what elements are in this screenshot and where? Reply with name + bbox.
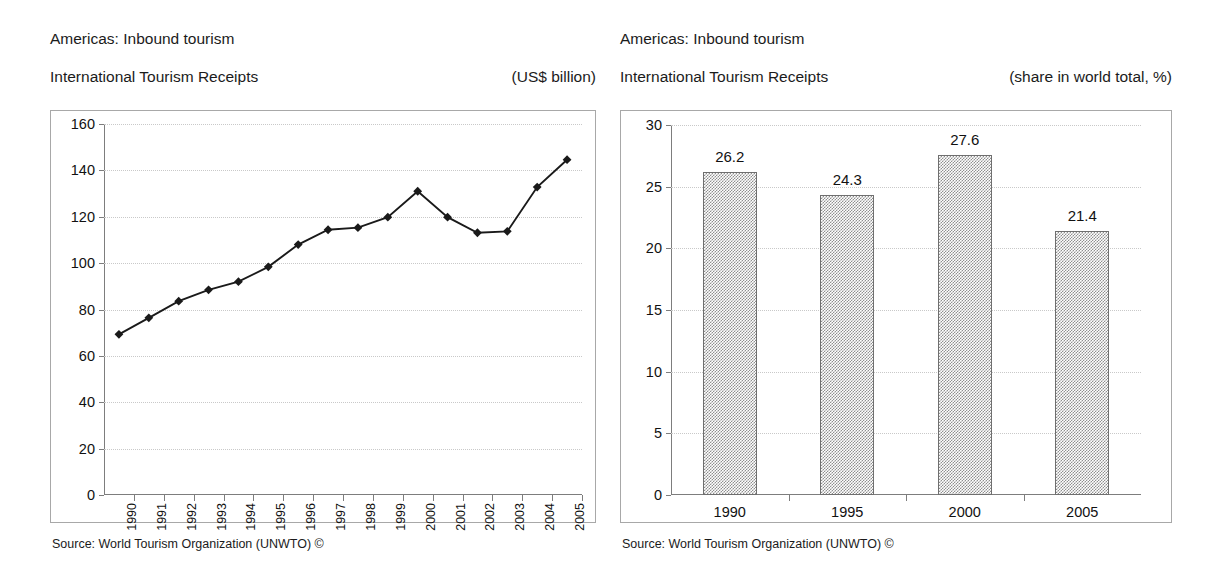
x-axis-label: 2000: [949, 504, 981, 520]
x-axis-label: 1990: [714, 504, 746, 520]
left-chart-source: Source: World Tourism Organization (UNWT…: [52, 537, 324, 551]
left-chart-frame: 0204060801001201401601990199119921993199…: [50, 110, 596, 523]
x-axis-tick: [313, 495, 314, 501]
bar-value-label: 21.4: [1068, 207, 1097, 224]
y-axis-label: 20: [646, 240, 662, 256]
x-axis-label: 1995: [274, 503, 288, 531]
x-axis-label: 1992: [185, 503, 199, 531]
data-point-marker: [354, 223, 363, 232]
data-point-marker: [204, 285, 213, 294]
data-point-marker: [324, 225, 333, 234]
y-axis-tick: [666, 310, 671, 311]
y-axis-label: 15: [646, 302, 662, 318]
y-axis-tick: [666, 187, 671, 188]
right-chart-frame: 05101520253026.2199024.3199527.6200021.4…: [620, 110, 1172, 523]
left-chart-panel: Americas: Inbound tourism International …: [50, 0, 596, 586]
right-chart-source: Source: World Tourism Organization (UNWT…: [622, 537, 894, 551]
y-axis-label: 140: [71, 162, 95, 178]
bar: [938, 155, 992, 495]
x-axis-tick: [582, 495, 583, 501]
x-axis-label: 2004: [543, 503, 557, 531]
x-axis-tick: [492, 495, 493, 501]
x-axis-tick: [433, 495, 434, 501]
right-chart-title-line2: International Tourism Receipts: [620, 69, 828, 85]
y-axis-tick: [666, 125, 671, 126]
left-chart-plot-area: 0204060801001201401601990199119921993199…: [104, 124, 582, 495]
y-axis-label: 160: [71, 116, 95, 132]
left-chart-subtitle-row: International Tourism Receipts (US$ bill…: [50, 69, 596, 85]
x-axis-tick: [1024, 495, 1025, 501]
line-series: [104, 124, 582, 495]
x-axis-label: 2001: [454, 503, 468, 531]
y-axis-tick: [666, 433, 671, 434]
y-axis-label: 80: [79, 302, 95, 318]
x-axis-tick: [224, 495, 225, 501]
x-axis-label: 1998: [364, 503, 378, 531]
x-axis-label: 1995: [831, 504, 863, 520]
x-axis-tick: [194, 495, 195, 501]
y-axis-label: 0: [654, 487, 662, 503]
y-axis-label: 100: [71, 255, 95, 271]
gridline: [671, 125, 1141, 126]
y-axis-label: 40: [79, 394, 95, 410]
y-axis-tick: [99, 495, 104, 496]
x-axis-label: 1991: [155, 503, 169, 531]
y-axis-label: 5: [654, 425, 662, 441]
left-chart-title-line2: International Tourism Receipts: [50, 69, 258, 85]
right-chart-panel: Americas: Inbound tourism International …: [620, 0, 1172, 586]
data-point-marker: [473, 228, 482, 237]
y-axis-label: 0: [87, 487, 95, 503]
y-axis-label: 60: [79, 348, 95, 364]
x-axis-label: 1993: [215, 503, 229, 531]
right-chart-subtitle-row: International Tourism Receipts (share in…: [620, 69, 1172, 85]
y-axis-label: 10: [646, 364, 662, 380]
right-chart-plot-area: 05101520253026.2199024.3199527.6200021.4…: [671, 125, 1141, 495]
bar-value-label: 24.3: [833, 171, 862, 188]
x-axis-label: 2005: [573, 503, 587, 531]
y-axis-tick: [666, 495, 671, 496]
x-axis-tick: [343, 495, 344, 501]
x-axis-tick: [283, 495, 284, 501]
y-axis-label: 120: [71, 209, 95, 225]
x-axis-tick: [253, 495, 254, 501]
x-axis-label: 1996: [304, 503, 318, 531]
y-axis-label: 25: [646, 179, 662, 195]
bar: [703, 172, 757, 495]
x-axis-label: 1999: [394, 503, 408, 531]
bar-value-label: 26.2: [715, 148, 744, 165]
x-axis-label: 1990: [125, 503, 139, 531]
line-path: [119, 160, 567, 335]
x-axis-label: 2000: [424, 503, 438, 531]
x-axis-label: 1994: [244, 503, 258, 531]
bar: [1055, 231, 1109, 495]
y-axis-label: 30: [646, 117, 662, 133]
y-axis-tick: [666, 248, 671, 249]
right-chart-unit-label: (share in world total, %): [1009, 69, 1172, 85]
data-point-marker: [174, 297, 183, 306]
bar: [820, 195, 874, 495]
x-axis-label: 2005: [1066, 504, 1098, 520]
x-axis-tick: [373, 495, 374, 501]
x-axis-tick: [906, 495, 907, 501]
x-axis-label: 1997: [334, 503, 348, 531]
x-axis-tick: [789, 495, 790, 501]
data-point-marker: [144, 313, 153, 322]
right-chart-title-line1: Americas: Inbound tourism: [620, 31, 804, 47]
y-axis-tick: [666, 372, 671, 373]
x-axis-tick: [134, 495, 135, 501]
left-chart-title-line1: Americas: Inbound tourism: [50, 31, 234, 47]
y-axis-label: 20: [79, 441, 95, 457]
x-axis-tick: [463, 495, 464, 501]
x-axis-label: 2003: [513, 503, 527, 531]
x-axis-tick: [522, 495, 523, 501]
x-axis-tick: [552, 495, 553, 501]
x-axis-tick: [403, 495, 404, 501]
data-point-marker: [115, 330, 124, 339]
data-point-marker: [234, 277, 243, 286]
left-chart-unit-label: (US$ billion): [512, 69, 596, 85]
bar-value-label: 27.6: [950, 131, 979, 148]
x-axis-tick: [164, 495, 165, 501]
x-axis-label: 2002: [483, 503, 497, 531]
